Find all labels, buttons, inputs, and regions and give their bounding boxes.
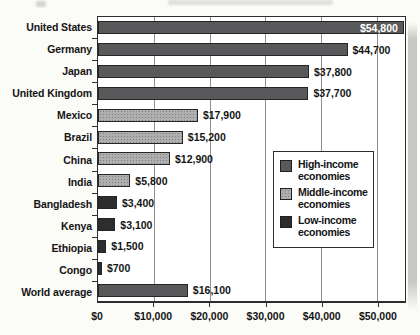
y-axis-label: Congo — [0, 259, 92, 281]
legend-label: Low-income economies — [298, 215, 370, 238]
bar-row: $16,100 — [98, 279, 405, 301]
bar — [98, 218, 115, 231]
bar-row: $44,700 — [98, 39, 405, 61]
bar — [98, 284, 188, 297]
gdp-per-capita-bar-chart: United States Germany Japan United Kingd… — [0, 0, 420, 335]
value-label: $17,900 — [203, 109, 241, 121]
cropped-title-artifact — [36, 1, 46, 7]
legend-entry: High-income economies — [280, 159, 370, 182]
value-label: $700 — [107, 262, 130, 274]
value-label: $15,200 — [188, 131, 226, 143]
y-axis-label: Kenya — [0, 215, 92, 237]
value-label: $12,900 — [175, 153, 213, 165]
value-label: $37,700 — [313, 87, 351, 99]
bar — [98, 240, 106, 253]
y-axis-label: Mexico — [0, 104, 92, 126]
bar-row: $37,700 — [98, 83, 405, 105]
value-label: $3,100 — [120, 219, 152, 231]
bar-row: $17,900 — [98, 104, 405, 126]
x-axis-tick — [266, 303, 267, 307]
bar: $54,800 — [98, 21, 404, 34]
x-tick-label: $30,000 — [247, 310, 285, 322]
x-tick-label: $20,000 — [190, 310, 228, 322]
low-income-swatch — [280, 216, 292, 228]
x-axis-tick — [153, 303, 154, 307]
legend: High-income economies Middle-income econ… — [273, 151, 374, 248]
legend-label: Middle-income economies — [298, 187, 370, 210]
y-axis-label: United States — [0, 16, 92, 38]
bar — [98, 43, 348, 56]
value-label: $16,100 — [193, 284, 231, 296]
high-income-swatch — [280, 160, 292, 172]
x-axis-tick — [209, 303, 210, 307]
middle-income-swatch — [280, 188, 292, 200]
y-axis-label: China — [0, 148, 92, 170]
bar — [98, 152, 170, 165]
y-axis-label: Ethiopia — [0, 237, 92, 259]
y-axis-label: Japan — [0, 60, 92, 82]
x-tick-label: $10,000 — [134, 310, 172, 322]
value-label: $1,500 — [111, 240, 143, 252]
bar-row: $700 — [98, 257, 405, 279]
value-label: $37,800 — [314, 66, 352, 78]
bar — [98, 131, 183, 144]
bar-row: $15,200 — [98, 126, 405, 148]
x-tick-label: $50,000 — [359, 310, 397, 322]
bar — [98, 262, 102, 275]
y-axis-label: India — [0, 171, 92, 193]
y-axis-labels: United States Germany Japan United Kingd… — [0, 16, 92, 303]
bar — [98, 196, 117, 209]
y-axis-label: World average — [0, 281, 92, 303]
x-tick-label: $0 — [91, 310, 103, 322]
legend-entry: Middle-income economies — [280, 187, 370, 210]
value-label: $44,700 — [353, 44, 391, 56]
legend-entry: Low-income economies — [280, 215, 370, 238]
bar-row: $37,800 — [98, 61, 405, 83]
bar — [98, 174, 130, 187]
value-label: $5,800 — [135, 175, 167, 187]
cropped-title-artifact — [168, 0, 333, 5]
value-label: $54,800 — [360, 22, 398, 34]
x-axis: $0$10,000$20,000$30,000$40,000$50,000 — [97, 303, 406, 333]
y-axis-label: Bangladesh — [0, 193, 92, 215]
x-tick-label: $40,000 — [303, 310, 341, 322]
bar — [98, 65, 309, 78]
x-axis-tick — [378, 303, 379, 307]
bar-row: $54,800 — [98, 17, 405, 39]
y-axis-label: Brazil — [0, 126, 92, 148]
bar — [98, 109, 198, 122]
legend-label: High-income economies — [298, 159, 370, 182]
bar — [98, 87, 308, 100]
y-axis-label: Germany — [0, 38, 92, 60]
y-axis-label: United Kingdom — [0, 82, 92, 104]
scan-shadow — [408, 22, 417, 310]
value-label: $3,400 — [122, 197, 154, 209]
x-axis-tick — [322, 303, 323, 307]
